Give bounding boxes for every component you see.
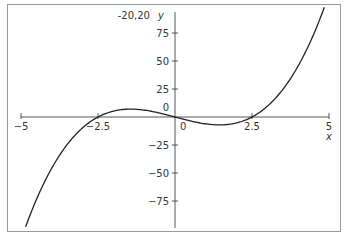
range-label: -20,20 <box>118 10 150 21</box>
y-tick-label: 25 <box>156 84 169 95</box>
y-tick-label: 50 <box>156 56 169 67</box>
y-tick-label: −50 <box>148 168 169 179</box>
y-axis-label: y <box>157 10 165 21</box>
x-axis-label: x <box>325 131 332 142</box>
y-tick-label: 75 <box>156 28 169 39</box>
y-tick-label: −25 <box>148 140 169 151</box>
y-tick-label: −75 <box>148 196 169 207</box>
x-tick-label: 2.5 <box>244 121 260 132</box>
x-tick-label: 0 <box>180 121 186 132</box>
x-tick-label: −5 <box>14 121 29 132</box>
plot-area: −5−2.502.557550250−25−50−75xy-20,20 <box>0 0 348 240</box>
y-tick-label: 0 <box>163 102 169 113</box>
